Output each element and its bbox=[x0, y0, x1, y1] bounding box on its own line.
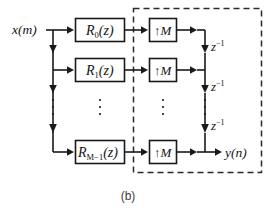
upsampler-block-2-label: ↑M bbox=[154, 145, 173, 160]
arrowhead-bus-1 bbox=[49, 85, 57, 93]
arrowhead-upsampler-in-2 bbox=[141, 148, 148, 156]
figure-caption: (b) bbox=[121, 189, 136, 203]
arrowhead-sum-in-0 bbox=[190, 26, 197, 34]
arrowhead-upsampler-in-0 bbox=[141, 26, 148, 34]
ellipsis-upsampler-column bbox=[162, 99, 164, 115]
output-signal-label: y(n) bbox=[223, 145, 247, 160]
delay-label-2: z−1 bbox=[210, 118, 225, 133]
ellipsis-filter-column bbox=[99, 99, 101, 115]
upsampler-block-0-label: ↑M bbox=[154, 23, 173, 38]
arrowhead-delay-2 bbox=[201, 124, 209, 133]
block-diagram: x(m) R0(z) R1(z) RM−1(z) bbox=[0, 0, 271, 215]
arrowhead-upsampler-in-1 bbox=[141, 66, 148, 74]
arrowhead-bus-0 bbox=[49, 45, 57, 53]
arrowhead-delay-1 bbox=[201, 85, 209, 93]
arrowhead-bus-2 bbox=[49, 124, 57, 133]
arrowhead-delay-0 bbox=[201, 45, 209, 53]
arrowhead-sum-in-2 bbox=[190, 148, 197, 156]
arrowhead-filter-in-0 bbox=[67, 26, 74, 34]
filter-block-1-label: R1(z) bbox=[85, 63, 114, 80]
arrowhead-output bbox=[215, 148, 222, 156]
upsampler-block-1-label: ↑M bbox=[154, 63, 173, 78]
arrowhead-filter-in-1 bbox=[67, 66, 74, 74]
delay-label-0: z−1 bbox=[210, 39, 225, 54]
figure-canvas: x(m) R0(z) R1(z) RM−1(z) bbox=[0, 0, 271, 215]
filter-block-0-label: R0(z) bbox=[85, 23, 114, 40]
arrowhead-sum-in-1 bbox=[190, 66, 197, 74]
arrowhead-filter-in-2 bbox=[67, 148, 74, 156]
delay-label-1: z−1 bbox=[210, 79, 225, 94]
input-signal-label: x(m) bbox=[11, 22, 37, 37]
